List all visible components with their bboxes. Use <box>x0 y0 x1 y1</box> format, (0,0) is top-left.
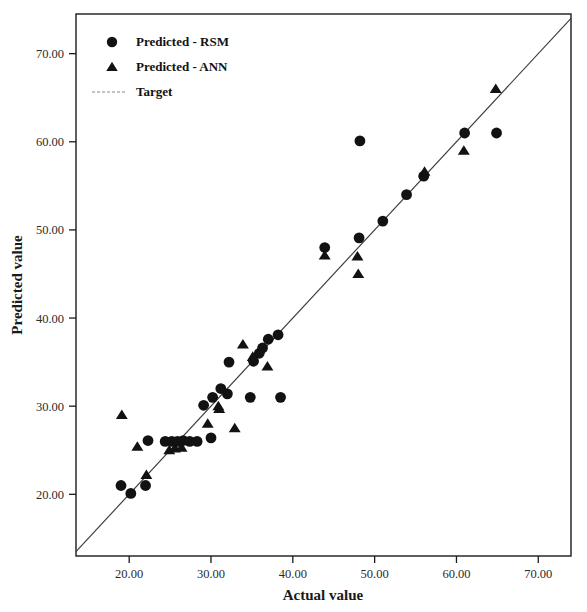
y-tick-label: 50.00 <box>36 223 64 237</box>
data-point-rsm <box>275 392 286 403</box>
series-predicted-rsm <box>116 128 502 499</box>
scatter-chart-container: 20.0030.0040.0050.0060.0070.00 20.0030.0… <box>0 0 587 612</box>
data-point-ann <box>237 339 249 349</box>
legend-entry-label: Predicted - RSM <box>136 34 229 49</box>
data-point-ann <box>202 418 214 428</box>
data-point-rsm <box>459 128 470 139</box>
data-point-rsm <box>192 436 203 447</box>
x-axis-ticks <box>129 556 538 563</box>
chart-legend: Predicted - RSMPredicted - ANNTarget <box>92 34 229 99</box>
data-point-ann <box>490 83 502 93</box>
data-point-rsm <box>273 329 284 340</box>
x-tick-label: 50.00 <box>361 567 389 581</box>
data-point-ann <box>229 423 241 433</box>
data-point-ann <box>131 441 143 451</box>
data-point-rsm <box>116 480 127 491</box>
legend-entry-label: Target <box>136 84 173 99</box>
y-tick-label: 70.00 <box>36 47 64 61</box>
data-point-rsm <box>263 334 274 345</box>
data-point-rsm <box>143 435 154 446</box>
x-tick-label: 40.00 <box>279 567 307 581</box>
y-tick-label: 20.00 <box>36 488 64 502</box>
y-axis-ticks <box>69 54 76 495</box>
y-axis-title: Predicted value <box>9 235 25 335</box>
data-point-rsm <box>355 136 366 147</box>
data-point-ann <box>458 145 470 155</box>
data-point-rsm <box>206 433 217 444</box>
data-point-rsm <box>224 357 235 368</box>
data-point-ann <box>352 269 364 279</box>
y-tick-label: 30.00 <box>36 400 64 414</box>
data-point-rsm <box>401 189 412 200</box>
data-point-ann <box>116 410 128 420</box>
data-point-rsm <box>377 216 388 227</box>
x-tick-label: 70.00 <box>524 567 552 581</box>
data-point-rsm <box>140 480 151 491</box>
legend-marker-circle <box>107 37 117 47</box>
legend-marker-triangle <box>106 62 117 71</box>
data-point-rsm <box>354 232 365 243</box>
x-tick-label: 30.00 <box>197 567 225 581</box>
scatter-plot-svg: 20.0030.0040.0050.0060.0070.00 20.0030.0… <box>0 0 587 612</box>
data-point-rsm <box>245 392 256 403</box>
data-point-rsm <box>491 128 502 139</box>
x-tick-label: 20.00 <box>115 567 143 581</box>
legend-entry-label: Predicted - ANN <box>136 59 228 74</box>
data-point-ann <box>319 250 331 260</box>
data-point-rsm <box>222 388 233 399</box>
data-point-rsm <box>198 400 209 411</box>
data-point-rsm <box>125 488 136 499</box>
x-axis-title: Actual value <box>283 587 364 603</box>
y-tick-label: 40.00 <box>36 312 64 326</box>
x-tick-label: 60.00 <box>442 567 470 581</box>
y-axis-tick-labels: 20.0030.0040.0050.0060.0070.00 <box>36 47 64 502</box>
data-point-ann <box>262 361 274 371</box>
series-predicted-ann <box>116 83 502 479</box>
y-tick-label: 60.00 <box>36 135 64 149</box>
x-axis-tick-labels: 20.0030.0040.0050.0060.0070.00 <box>115 567 552 581</box>
data-point-rsm <box>207 392 218 403</box>
